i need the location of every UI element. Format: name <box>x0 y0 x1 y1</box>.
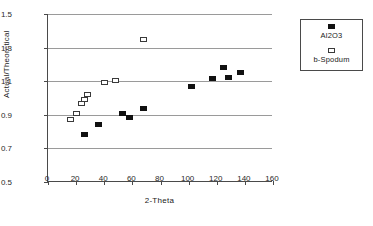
chart-legend: Al2O3 b-Spodum <box>300 19 363 71</box>
plot-area <box>47 14 272 182</box>
gridline <box>48 81 272 82</box>
x-tick-label: 40 <box>99 174 108 183</box>
legend-label: Al2O3 <box>301 31 362 40</box>
data-point <box>140 37 147 42</box>
filled-square-marker-icon <box>328 24 335 29</box>
scatter-chart: Actual/Theoretical 020406080100120140160… <box>0 0 290 226</box>
data-point <box>67 117 74 122</box>
y-tick-label: 0.7 <box>1 144 12 153</box>
legend-entry-al2o3: Al2O3 <box>301 24 362 40</box>
y-tick-label: 1.1 <box>1 77 12 86</box>
gridline <box>48 48 272 49</box>
x-tick-label: 20 <box>71 174 80 183</box>
data-point <box>81 132 88 137</box>
x-tick-label: 120 <box>209 174 222 183</box>
y-tick-label: 1.5 <box>1 10 12 19</box>
legend-label: b-Spodum <box>301 55 362 64</box>
x-tick-label: 80 <box>155 174 164 183</box>
legend-entry-b-spodum: b-Spodum <box>301 48 362 64</box>
data-point <box>126 115 133 120</box>
data-point <box>209 76 216 81</box>
gridline <box>48 14 272 15</box>
data-point <box>188 84 195 89</box>
data-point <box>81 97 88 102</box>
x-tick-label: 0 <box>45 174 49 183</box>
y-tick <box>44 48 48 49</box>
data-point <box>220 65 227 70</box>
y-tick <box>44 81 48 82</box>
data-point <box>140 106 147 111</box>
y-tick-label: 0.5 <box>1 178 12 187</box>
y-tick <box>44 115 48 116</box>
data-point <box>119 111 126 116</box>
data-point <box>73 111 80 116</box>
data-point <box>225 75 232 80</box>
data-point <box>237 70 244 75</box>
data-point <box>101 80 108 85</box>
gridline <box>48 148 272 149</box>
x-axis-title: 2-Theta <box>47 196 272 205</box>
y-tick <box>44 148 48 149</box>
data-point <box>112 78 119 83</box>
x-tick-label: 100 <box>181 174 194 183</box>
data-point <box>84 92 91 97</box>
y-tick-label: 1.3 <box>1 43 12 52</box>
gridline <box>48 115 272 116</box>
y-tick-label: 0.9 <box>1 110 12 119</box>
y-tick <box>44 14 48 15</box>
open-square-marker-icon <box>328 48 335 53</box>
y-axis-title: Actual/Theoretical <box>2 30 11 98</box>
x-tick-label: 60 <box>127 174 136 183</box>
x-tick-label: 140 <box>237 174 250 183</box>
x-tick-label: 160 <box>265 174 278 183</box>
data-point <box>95 122 102 127</box>
